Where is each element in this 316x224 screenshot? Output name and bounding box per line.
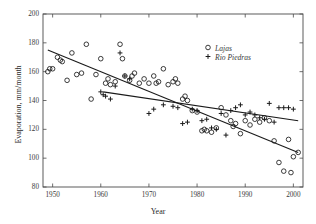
axis-frame [43, 14, 303, 187]
y-tick-label: 200 [20, 10, 39, 18]
evaporation-trend-chart: 195019601970198019902000 801001201401601… [0, 0, 316, 224]
legend-label-lajas: Lajas [215, 44, 232, 53]
x-tick-label: 1950 [45, 191, 59, 199]
x-tick-label: 1960 [94, 191, 108, 199]
series-rio-piedras-markers [98, 51, 295, 138]
y-tick-label: 80 [20, 183, 39, 191]
y-tick-label: 160 [20, 68, 39, 76]
legend-markers [206, 45, 211, 59]
legend-label-rio-piedras: Rio Piedras [215, 53, 251, 62]
y-tick-label: 180 [20, 39, 39, 47]
x-tick-label: 2000 [286, 191, 300, 199]
x-tick-label: 1980 [190, 191, 204, 199]
y-tick-label: 140 [20, 97, 39, 105]
x-tick-label: 1970 [142, 191, 156, 199]
x-axis-title: Year [0, 207, 316, 216]
axis-ticks [43, 14, 303, 187]
trend-lines [48, 50, 298, 152]
x-tick-label: 1990 [238, 191, 252, 199]
y-tick-label: 120 [20, 125, 39, 133]
y-axis-title: Evaporation, mm/month [14, 35, 23, 175]
y-tick-label: 100 [20, 154, 39, 162]
